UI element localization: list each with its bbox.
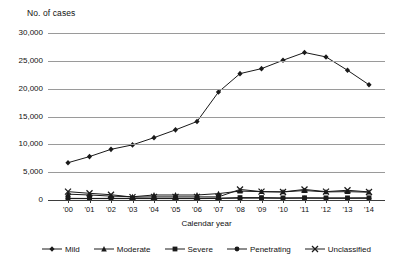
- gridline: [48, 61, 385, 62]
- x-axis-tick-label: '03: [128, 205, 138, 214]
- x-axis-tick: [283, 200, 284, 203]
- x-axis-tick-label: '11: [300, 205, 309, 214]
- legend-item-unclassified[interactable]: Unclassified: [305, 244, 371, 254]
- x-axis-tick-label: '07: [214, 205, 224, 214]
- y-axis-tick-label: 15,000: [19, 112, 46, 121]
- gridline: [48, 33, 385, 34]
- x-axis-tick-label: '05: [171, 205, 181, 214]
- x-axis-tick-labels: '00'01'02'03'04'05'06'07'08'09'10'11'12'…: [48, 205, 385, 217]
- series-mild: [65, 50, 371, 166]
- x-axis-tick: [348, 200, 349, 203]
- x-axis-tick-label: '01: [85, 205, 95, 214]
- y-axis-tick-labels: 05,00010,00015,00020,00025,00030,000: [0, 33, 46, 200]
- y-axis-tick-label: 20,000: [19, 84, 46, 93]
- legend-item-mild[interactable]: Mild: [42, 244, 80, 254]
- legend-label: Severe: [188, 245, 213, 254]
- x-axis-tick: [176, 200, 177, 203]
- x-axis-tick-label: '04: [149, 205, 159, 214]
- x-axis-tick: [133, 200, 134, 203]
- y-axis-title: No. of cases: [27, 8, 75, 18]
- x-axis-tick-label: '08: [235, 205, 245, 214]
- y-axis-tick-label: 30,000: [19, 28, 46, 37]
- x-axis-tick: [326, 200, 327, 203]
- x-axis-tick: [111, 200, 112, 203]
- x-axis-tick-label: '00: [63, 205, 73, 214]
- x-axis-tick: [219, 200, 220, 203]
- y-axis-tick-label: 25,000: [19, 56, 46, 65]
- x-axis-tick-label: '02: [106, 205, 116, 214]
- x-axis-tick: [90, 200, 91, 203]
- legend-label: Moderate: [117, 245, 151, 254]
- cross-marker-icon: [305, 244, 325, 254]
- gridline: [48, 172, 385, 173]
- x-axis-tick-label: '10: [278, 205, 288, 214]
- x-axis-tick-label: '06: [192, 205, 202, 214]
- x-axis-tick: [68, 200, 69, 203]
- gridline: [48, 89, 385, 90]
- x-axis-tick-label: '14: [364, 205, 374, 214]
- legend-item-penetrating[interactable]: Penetrating: [227, 244, 291, 254]
- legend-label: Mild: [65, 245, 80, 254]
- x-axis-tick: [154, 200, 155, 203]
- x-axis-tick: [369, 200, 370, 203]
- chart-legend: MildModerateSeverePenetratingUnclassifie…: [0, 240, 413, 258]
- gridline: [48, 144, 385, 145]
- legend-label: Penetrating: [250, 245, 291, 254]
- x-axis-tick-label: '09: [257, 205, 267, 214]
- gridline: [48, 117, 385, 118]
- x-axis-ticks: [48, 200, 385, 204]
- square-marker-icon: [165, 244, 185, 254]
- legend-item-moderate[interactable]: Moderate: [94, 244, 151, 254]
- chart-container: No. of cases 05,00010,00015,00020,00025,…: [0, 0, 413, 270]
- x-axis-tick-label: '12: [321, 205, 331, 214]
- circle-marker-icon: [227, 244, 247, 254]
- y-axis-tick-label: 5,000: [23, 167, 46, 176]
- legend-label: Unclassified: [328, 245, 371, 254]
- x-axis-tick: [240, 200, 241, 203]
- y-axis-tick-label: 0: [39, 195, 46, 204]
- triangle-marker-icon: [94, 244, 114, 254]
- legend-item-severe[interactable]: Severe: [165, 244, 213, 254]
- x-axis-title: Calendar year: [0, 219, 413, 228]
- y-axis-tick-label: 10,000: [19, 139, 46, 148]
- diamond-marker-icon: [42, 244, 62, 254]
- x-axis-tick: [197, 200, 198, 203]
- x-axis-tick-label: '13: [343, 205, 353, 214]
- x-axis-tick: [305, 200, 306, 203]
- plot-area: [48, 33, 385, 200]
- x-axis-tick: [262, 200, 263, 203]
